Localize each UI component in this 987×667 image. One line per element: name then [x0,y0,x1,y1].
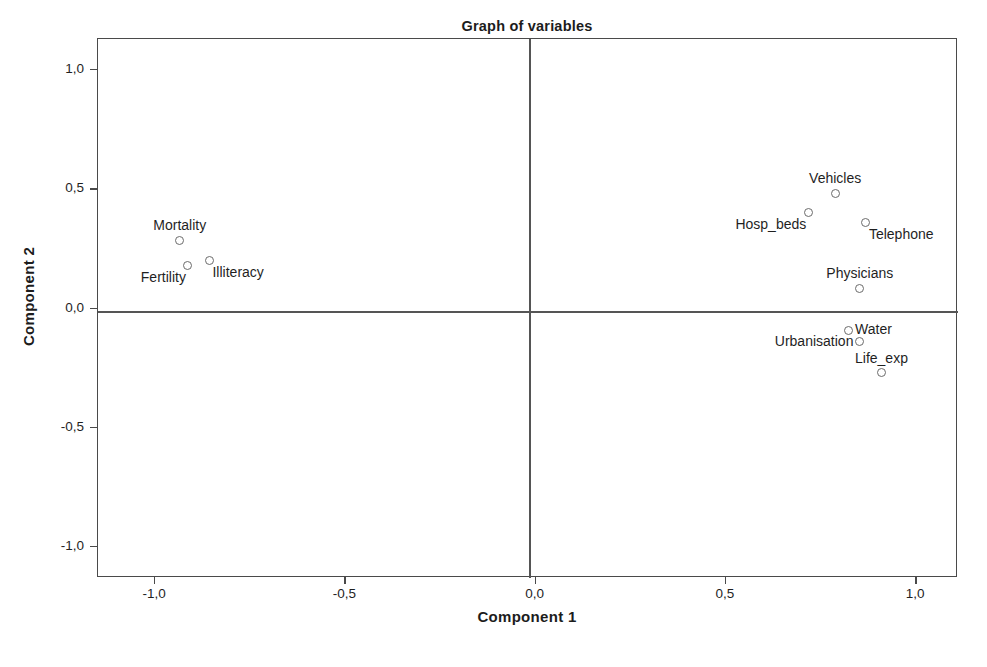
scatter-point-urbanisation [855,337,864,346]
x-tick-label: 1,0 [885,586,945,601]
point-label-mortality: Mortality [153,218,206,232]
y-tick-label: -0,5 [26,419,84,434]
x-tick-label: -0,5 [314,586,374,601]
chart-title: Graph of variables [97,18,957,34]
x-tick-mark [344,577,345,584]
y-tick-mark [90,69,97,70]
x-axis-title: Component 1 [97,608,957,625]
scatter-point-life_exp [877,368,886,377]
scatter-points-layer: MortalityFertilityIlliteracyHosp_bedsVeh… [98,39,958,578]
y-tick-label: -1,0 [26,538,84,553]
point-label-physicians: Physicians [826,266,893,280]
x-tick-label: -1,0 [124,586,184,601]
y-tick-label: 0,5 [26,180,84,195]
y-tick-mark [90,308,97,309]
y-axis-title: Component 2 [20,197,37,397]
point-label-life_exp: Life_exp [855,351,908,365]
x-tick-mark [535,577,536,584]
x-tick-mark [154,577,155,584]
y-tick-mark [90,546,97,547]
x-tick-label: 0,5 [695,586,755,601]
point-label-telephone: Telephone [869,227,934,241]
point-label-illiteracy: Illiteracy [212,265,263,279]
point-label-fertility: Fertility [141,270,186,284]
y-tick-label: 1,0 [26,61,84,76]
point-label-water: Water [855,322,892,336]
scatter-point-physicians [855,284,864,293]
y-tick-mark [90,188,97,189]
x-tick-mark [915,577,916,584]
x-tick-label: 0,0 [505,586,565,601]
y-tick-mark [90,427,97,428]
plot-area: MortalityFertilityIlliteracyHosp_bedsVeh… [97,38,957,577]
scatter-point-mortality [175,236,184,245]
point-label-vehicles: Vehicles [809,171,861,185]
chart-figure: Graph of variables MortalityFertilityIll… [0,0,987,667]
x-tick-mark [725,577,726,584]
point-label-hosp_beds: Hosp_beds [735,217,806,231]
scatter-point-vehicles [831,189,840,198]
point-label-urbanisation: Urbanisation [775,334,854,348]
